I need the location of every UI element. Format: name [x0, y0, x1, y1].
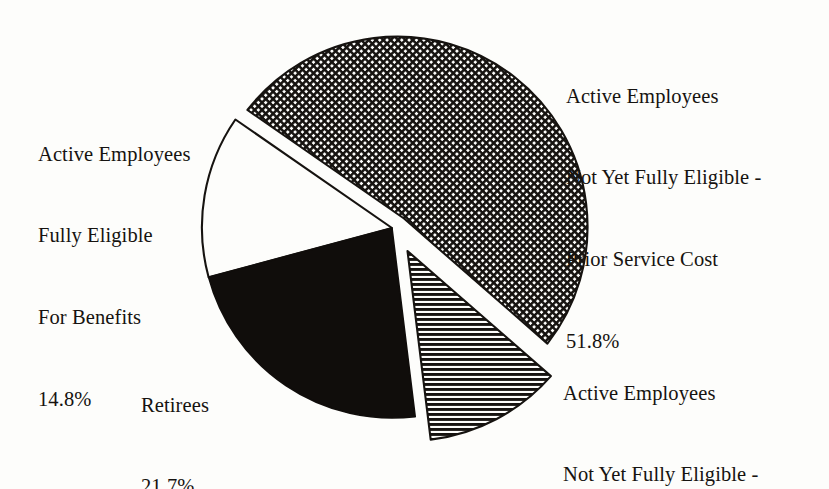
pie-label-line: Not Yet Fully Eligible -: [566, 164, 761, 191]
pie-label-line: For Benefits: [38, 304, 190, 331]
pie-label-line: Fully Eligible: [38, 222, 190, 249]
pie-label-value: 21.7%: [141, 473, 209, 489]
pie-label-line: Not Yet Fully Eligible -: [563, 461, 758, 488]
pie-label-line: Active Employees: [563, 380, 758, 407]
pie-label-line: Active Employees: [38, 141, 190, 168]
pie-label-line: Active Employees: [566, 83, 761, 110]
pie-label-line: Retirees: [141, 392, 209, 419]
pie-label-present-value-future-service-cost: Active Employees Not Yet Fully Eligible …: [563, 325, 758, 489]
pie-label-line: Prior Service Cost: [566, 246, 761, 273]
pie-chart-figure: Active Employees Not Yet Fully Eligible …: [0, 0, 829, 489]
pie-label-retirees: Retirees 21.7%: [141, 337, 209, 489]
